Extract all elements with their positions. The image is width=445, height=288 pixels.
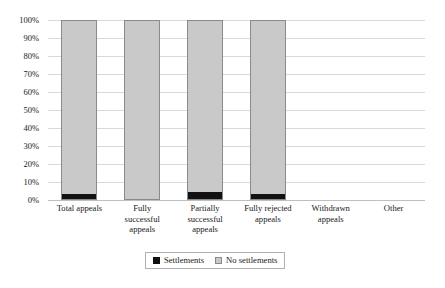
legend-swatch-settlements [153,257,160,264]
x-axis-labels: Total appealsFullysuccessfulappealsParti… [48,203,425,247]
x-axis-label-line: Withdrawn [299,203,362,214]
x-axis-category-label: Total appeals [48,203,111,214]
gridline [48,74,425,75]
y-axis-tick-label: 0% [28,196,39,205]
bar-segment-settlements[interactable] [62,194,96,199]
gridline [48,164,425,165]
x-axis-label-line: appeals [174,224,237,235]
stacked-bar-chart: 100%90%80%70%60%50%40%30%20%10%0% Total … [0,0,445,288]
y-axis-tick-label: 30% [23,142,39,151]
y-axis-tick-label: 90% [23,34,39,43]
stacked-bar[interactable] [124,20,160,200]
x-axis-category-label: Partiallysuccessfulappeals [174,203,237,235]
gridline [48,146,425,147]
stacked-bar[interactable] [187,20,223,200]
legend-swatch-no-settlements [215,257,222,264]
x-axis-category-label: Other [362,203,425,214]
gridline [48,56,425,57]
y-axis-tick-label: 10% [23,178,39,187]
gridline [48,182,425,183]
x-axis-category-label: Withdrawnappeals [299,203,362,224]
legend-item[interactable]: Settlements [153,256,204,265]
y-axis-tick-label: 80% [23,52,39,61]
y-axis: 100%90%80%70%60%50%40%30%20%10%0% [0,20,44,200]
legend-label: Settlements [164,256,204,265]
gridline [48,20,425,21]
x-axis-label-line: appeals [237,214,300,225]
bar-segment-no-settlements[interactable] [125,21,159,199]
bar-segment-no-settlements[interactable] [251,21,285,194]
x-axis-label-line: appeals [299,214,362,225]
x-axis-label-line: Fully [111,203,174,214]
x-axis-label-line: Fully rejected [237,203,300,214]
chart-legend: SettlementsNo settlements [145,252,285,269]
y-axis-tick-label: 50% [23,106,39,115]
bar-segment-no-settlements[interactable] [62,21,96,194]
y-axis-tick-label: 60% [23,88,39,97]
gridline [48,92,425,93]
gridline [48,128,425,129]
gridline [48,38,425,39]
stacked-bar[interactable] [250,20,286,200]
legend-item[interactable]: No settlements [215,256,277,265]
axis-baseline [48,200,425,201]
x-axis-category-label: Fully rejectedappeals [237,203,300,224]
bar-segment-settlements[interactable] [188,192,222,199]
x-axis-category-label: Fullysuccessfulappeals [111,203,174,235]
y-axis-tick-label: 70% [23,70,39,79]
x-axis-label-line: Total appeals [48,203,111,214]
bar-segment-settlements[interactable] [251,194,285,199]
stacked-bar[interactable] [61,20,97,200]
y-axis-tick-label: 40% [23,124,39,133]
x-axis-label-line: Partially [174,203,237,214]
x-axis-label-line: appeals [111,224,174,235]
y-axis-tick-label: 20% [23,160,39,169]
legend-label: No settlements [226,256,277,265]
x-axis-label-line: Other [362,203,425,214]
x-axis-label-line: successful [111,214,174,225]
x-axis-label-line: successful [174,214,237,225]
y-axis-tick-label: 100% [19,16,39,25]
bar-segment-no-settlements[interactable] [188,21,222,192]
gridline [48,110,425,111]
plot-area [48,20,425,200]
